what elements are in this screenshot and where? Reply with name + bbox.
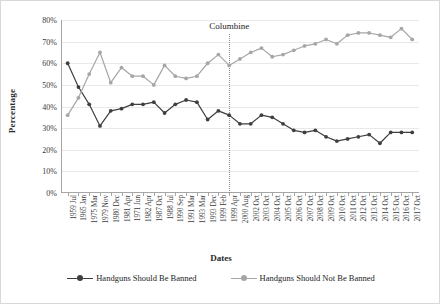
y-axis-tick-label: 60% bbox=[42, 59, 57, 68]
x-axis-tick-label: 2000 Aug bbox=[243, 195, 250, 223]
x-axis-tick-label: 2009 Oct bbox=[329, 195, 336, 222]
data-point bbox=[130, 74, 134, 78]
x-axis-tick-label: 1988 Jul bbox=[168, 195, 175, 220]
data-point bbox=[281, 122, 285, 126]
data-point bbox=[400, 27, 404, 31]
x-axis-tick-label: 1959 Jul bbox=[71, 195, 78, 220]
x-axis-tick-label: 2002 Oct bbox=[254, 195, 261, 222]
data-point bbox=[227, 113, 231, 117]
x-axis-tick-label: 1999 Apr bbox=[232, 195, 239, 222]
y-axis-tick-label: 0% bbox=[46, 189, 57, 198]
data-point bbox=[324, 135, 328, 139]
y-axis-tick-label: 30% bbox=[42, 124, 57, 133]
data-point bbox=[410, 38, 414, 42]
legend-item[interactable]: Handguns Should Not Be Banned bbox=[231, 273, 375, 283]
data-point bbox=[87, 72, 91, 76]
data-point bbox=[292, 128, 296, 132]
data-point bbox=[109, 81, 113, 85]
series-line-1 bbox=[68, 29, 413, 116]
data-point bbox=[378, 141, 382, 145]
data-point bbox=[260, 46, 264, 50]
x-axis-tick-label: 2008 Oct bbox=[318, 195, 325, 222]
data-point bbox=[238, 57, 242, 61]
data-point bbox=[238, 122, 242, 126]
data-point bbox=[163, 64, 167, 68]
data-point bbox=[120, 107, 124, 111]
x-axis-tick-label: 1965 Jan bbox=[81, 195, 88, 221]
data-point bbox=[249, 51, 253, 55]
data-point bbox=[227, 64, 231, 68]
x-axis-tick-label: 2016 Oct bbox=[404, 195, 411, 222]
data-point bbox=[217, 109, 221, 113]
data-point bbox=[324, 38, 328, 42]
x-axis-tick-label: 2014 Oct bbox=[383, 195, 390, 222]
data-point bbox=[378, 33, 382, 37]
chart-legend: Handguns Should Be BannedHandguns Should… bbox=[1, 273, 440, 283]
data-point bbox=[66, 113, 70, 117]
data-point bbox=[195, 100, 199, 104]
data-point bbox=[270, 115, 274, 119]
x-axis-tick-label: 2003 Oct bbox=[264, 195, 271, 222]
legend-swatch bbox=[231, 274, 257, 282]
data-point bbox=[217, 53, 221, 57]
y-axis-title-text: Percentage bbox=[7, 89, 17, 133]
data-point bbox=[367, 31, 371, 35]
data-point bbox=[292, 48, 296, 52]
data-point bbox=[335, 139, 339, 143]
data-point bbox=[77, 96, 81, 100]
legend-item[interactable]: Handguns Should Be Banned bbox=[67, 273, 196, 283]
data-point bbox=[270, 55, 274, 59]
y-axis-tick-label: 20% bbox=[42, 145, 57, 154]
x-axis-tick-label: 2013 Oct bbox=[372, 195, 379, 222]
data-point bbox=[152, 83, 156, 87]
data-point bbox=[335, 42, 339, 46]
data-point bbox=[130, 102, 134, 106]
data-point bbox=[87, 102, 91, 106]
data-point bbox=[173, 74, 177, 78]
y-axis-tick-label: 80% bbox=[42, 16, 57, 25]
x-axis-tick-label: 2007 Oct bbox=[308, 195, 315, 222]
data-point bbox=[184, 98, 188, 102]
data-point bbox=[346, 137, 350, 141]
data-point bbox=[303, 44, 307, 48]
y-axis-title: Percentage bbox=[5, 51, 19, 171]
data-point bbox=[152, 100, 156, 104]
data-point bbox=[346, 33, 350, 37]
data-point bbox=[313, 42, 317, 46]
data-point bbox=[249, 122, 253, 126]
y-axis-tick-label: 50% bbox=[42, 80, 57, 89]
data-point bbox=[356, 135, 360, 139]
chart-figure: Percentage 80%70%60%50%40%30%20%10%0% Co… bbox=[0, 0, 440, 304]
data-point bbox=[141, 102, 145, 106]
data-point bbox=[389, 35, 393, 39]
data-point bbox=[109, 109, 113, 113]
x-axis-tick-label: 2010 Oct bbox=[340, 195, 347, 222]
series-lines bbox=[61, 20, 419, 193]
data-point bbox=[313, 128, 317, 132]
plot-area: Columbine bbox=[61, 20, 419, 193]
y-axis-tick-label: 70% bbox=[42, 37, 57, 46]
x-axis-tick-label: 1979 Nov bbox=[103, 195, 110, 224]
x-axis-tick-label: 2012 Oct bbox=[361, 195, 368, 222]
x-axis-tick-label: 1971 Jun bbox=[135, 195, 142, 221]
data-point bbox=[389, 131, 393, 135]
legend-swatch bbox=[67, 274, 93, 282]
data-point bbox=[163, 111, 167, 115]
x-axis-tick-labels: 1959 Jul1965 Jan1975 Mar1979 Nov1980 Dec… bbox=[61, 195, 419, 251]
data-point bbox=[184, 76, 188, 80]
data-point bbox=[98, 124, 102, 128]
series-line-0 bbox=[68, 63, 413, 143]
x-axis-tick-label: 1991 Mar bbox=[189, 195, 196, 223]
data-point bbox=[303, 131, 307, 135]
x-axis-tick-label: 1987 Oct bbox=[157, 195, 164, 222]
data-point bbox=[98, 51, 102, 55]
x-axis-tick-label: 2004 Oct bbox=[275, 195, 282, 222]
data-point bbox=[281, 53, 285, 57]
x-axis-tick-label: 1975 Mar bbox=[92, 195, 99, 223]
x-axis-tick-label: 2017 Oct bbox=[415, 195, 422, 222]
y-axis-tick-label: 40% bbox=[42, 102, 57, 111]
data-point bbox=[120, 66, 124, 70]
data-point bbox=[206, 61, 210, 65]
x-axis-tick-label: 2006 Oct bbox=[297, 195, 304, 222]
x-axis-tick-label: 1990 Sep bbox=[178, 195, 185, 222]
